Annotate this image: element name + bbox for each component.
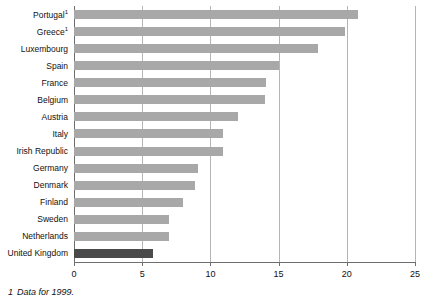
category-label-germany: Germany bbox=[0, 163, 68, 173]
category-label-belgium: Belgium bbox=[0, 95, 68, 105]
bar-row bbox=[74, 228, 415, 245]
bar-row bbox=[74, 57, 415, 74]
bar-netherlands bbox=[74, 232, 169, 241]
category-axis-labels: Portugal1Greece1LuxembourgSpainFranceBel… bbox=[0, 6, 68, 262]
gridline-25 bbox=[415, 6, 416, 262]
tick-label-25: 25 bbox=[410, 268, 420, 280]
category-label-irish-republic: Irish Republic bbox=[0, 146, 68, 156]
bar-greece bbox=[74, 27, 345, 36]
bar-sweden bbox=[74, 215, 169, 224]
bar-austria bbox=[74, 112, 238, 121]
bar-row bbox=[74, 245, 415, 262]
x-axis-tick-labels: 0510152025 bbox=[74, 268, 415, 282]
bar-irish-republic bbox=[74, 147, 223, 156]
bar-series bbox=[74, 6, 415, 262]
bar-row bbox=[74, 40, 415, 57]
tick-label-20: 20 bbox=[342, 268, 352, 280]
bar-finland bbox=[74, 198, 183, 207]
footnote-marker: 1 bbox=[8, 287, 13, 297]
bar-luxembourg bbox=[74, 44, 318, 53]
bar-row bbox=[74, 91, 415, 108]
bar-row bbox=[74, 194, 415, 211]
bar-row bbox=[74, 143, 415, 160]
category-label-sweden: Sweden bbox=[0, 214, 68, 224]
bar-italy bbox=[74, 129, 223, 138]
footnote: 1Data for 1999. bbox=[8, 286, 74, 298]
bar-row bbox=[74, 108, 415, 125]
footnote-ref: 1 bbox=[65, 9, 68, 15]
tick-label-10: 10 bbox=[205, 268, 215, 280]
bar-row bbox=[74, 74, 415, 91]
tick-mark-20 bbox=[347, 262, 348, 266]
category-label-france: France bbox=[0, 78, 68, 88]
tick-mark-15 bbox=[279, 262, 280, 266]
tick-label-5: 5 bbox=[140, 268, 145, 280]
tick-mark-25 bbox=[415, 262, 416, 266]
category-label-luxembourg: Luxembourg bbox=[0, 44, 68, 54]
bar-portugal bbox=[74, 10, 358, 19]
tick-mark-10 bbox=[210, 262, 211, 266]
tick-label-15: 15 bbox=[274, 268, 284, 280]
tick-label-0: 0 bbox=[71, 268, 76, 280]
footnote-text: Data for 1999. bbox=[17, 287, 74, 297]
category-label-netherlands: Netherlands bbox=[0, 231, 68, 241]
category-label-greece: Greece1 bbox=[0, 27, 68, 37]
bar-chart: Portugal1Greece1LuxembourgSpainFranceBel… bbox=[0, 0, 427, 304]
bar-united-kingdom bbox=[74, 249, 153, 258]
category-label-spain: Spain bbox=[0, 61, 68, 71]
bar-row bbox=[74, 211, 415, 228]
tick-mark-0 bbox=[74, 262, 75, 266]
category-label-italy: Italy bbox=[0, 129, 68, 139]
bar-belgium bbox=[74, 95, 265, 104]
category-label-portugal: Portugal1 bbox=[0, 10, 68, 20]
bar-row bbox=[74, 125, 415, 142]
bar-denmark bbox=[74, 181, 195, 190]
bar-france bbox=[74, 78, 266, 87]
category-label-austria: Austria bbox=[0, 112, 68, 122]
bar-spain bbox=[74, 61, 279, 70]
bar-row bbox=[74, 6, 415, 23]
bar-row bbox=[74, 23, 415, 40]
bar-germany bbox=[74, 164, 198, 173]
plot-area bbox=[74, 6, 415, 262]
tick-mark-5 bbox=[142, 262, 143, 266]
bar-row bbox=[74, 177, 415, 194]
category-label-united-kingdom: United Kingdom bbox=[0, 248, 68, 258]
footnote-ref: 1 bbox=[65, 26, 68, 32]
bar-row bbox=[74, 160, 415, 177]
category-label-denmark: Denmark bbox=[0, 180, 68, 190]
category-label-finland: Finland bbox=[0, 197, 68, 207]
